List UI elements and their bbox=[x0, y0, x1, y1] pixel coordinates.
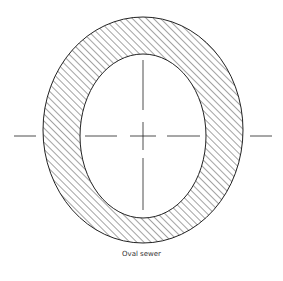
oval-sewer-diagram bbox=[0, 0, 283, 281]
diagram-caption: Oval sewer bbox=[0, 250, 283, 258]
